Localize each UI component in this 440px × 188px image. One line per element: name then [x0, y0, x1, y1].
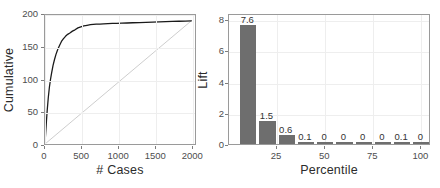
- lift-bar: [413, 142, 429, 144]
- cumulative-y-tick-mark: [41, 14, 44, 15]
- cumulative-y-tick-label: 50: [10, 106, 38, 117]
- gridline-vertical: [82, 15, 83, 144]
- cumulative-plot-area: [44, 14, 196, 145]
- cumulative-y-tick-label: 100: [10, 74, 38, 85]
- lift-x-axis-title: Percentile: [300, 163, 358, 177]
- cumulative-y-tick-mark: [41, 47, 44, 48]
- cumulative-y-tick-mark: [41, 112, 44, 113]
- cumulative-x-tick-mark: [81, 146, 82, 149]
- lift-y-tick-label: 8: [208, 14, 224, 25]
- cumulative-x-axis-title: # Cases: [96, 163, 143, 177]
- lift-x-tick-mark: [276, 146, 277, 149]
- cumulative-x-tick-label: 0: [24, 150, 64, 161]
- cumulative-x-tick-label: 2000: [172, 150, 212, 161]
- cumulative-x-tick-label: 1000: [98, 150, 138, 161]
- cumulative-y-tick-mark: [41, 80, 44, 81]
- cumulative-plot-svg: [45, 15, 195, 144]
- lift-bar-value-label: 0: [400, 131, 440, 142]
- lift-x-tick-label: 75: [352, 150, 392, 161]
- cumulative-x-tick-mark: [155, 146, 156, 149]
- lift-x-tick-mark: [324, 146, 325, 149]
- lift-y-tick-mark: [225, 145, 228, 146]
- gridline-horizontal: [45, 48, 195, 49]
- lift-x-tick-label: 100: [400, 150, 440, 161]
- gridline-vertical: [45, 15, 46, 144]
- cumulative-x-tick-mark: [118, 146, 119, 149]
- lift-bar: [375, 142, 391, 144]
- lift-y-tick-label: 2: [208, 108, 224, 119]
- lift-x-tick-label: 50: [304, 150, 344, 161]
- lift-y-tick-label: 0: [208, 139, 224, 150]
- cumulative-x-tick-mark: [44, 146, 45, 149]
- gridline-horizontal: [45, 113, 195, 114]
- cumulative-y-tick-label: 200: [10, 8, 38, 19]
- gridline-vertical: [156, 15, 157, 144]
- lift-bar: [240, 25, 256, 144]
- gridline-vertical: [193, 15, 194, 144]
- lift-y-tick-mark: [225, 51, 228, 52]
- lift-bar-value-label: 7.6: [227, 14, 267, 25]
- gridline-horizontal: [45, 15, 195, 16]
- cumulative-y-tick-label: 150: [10, 41, 38, 52]
- gridline-vertical: [373, 15, 374, 144]
- lift-x-tick-mark: [420, 146, 421, 149]
- lift-y-tick-mark: [225, 20, 228, 21]
- gridline-vertical: [421, 15, 422, 144]
- lift-bar: [394, 142, 410, 144]
- gridline-horizontal: [229, 84, 429, 85]
- gridline-horizontal: [229, 52, 429, 53]
- lift-plot-area: [228, 14, 430, 145]
- cumulative-x-tick-label: 500: [61, 150, 101, 161]
- lift-bar: [356, 142, 372, 144]
- lift-bar: [298, 142, 314, 144]
- lift-y-tick-label: 4: [208, 77, 224, 88]
- lift-bar-value-label: 1.5: [246, 110, 286, 121]
- lift-bar-chart: Lift Percentile 7.61.50.60.100000.100246…: [220, 0, 440, 188]
- cumulative-gains-chart: Cumulative # Cases 050100150200050010001…: [0, 0, 220, 188]
- lift-y-tick-label: 6: [208, 45, 224, 56]
- lift-y-tick-mark: [225, 83, 228, 84]
- lift-x-tick-mark: [372, 146, 373, 149]
- gridline-vertical: [325, 15, 326, 144]
- cumulative-x-tick-mark: [192, 146, 193, 149]
- gridline-horizontal: [45, 81, 195, 82]
- figure-panel-pair: Cumulative # Cases 050100150200050010001…: [0, 0, 440, 188]
- lift-y-tick-mark: [225, 114, 228, 115]
- cumulative-y-tick-label: 0: [10, 139, 38, 150]
- gridline-vertical: [119, 15, 120, 144]
- cumulative-x-tick-label: 1500: [135, 150, 175, 161]
- lift-bar: [336, 142, 352, 144]
- lift-x-tick-label: 25: [256, 150, 296, 161]
- lift-bar: [317, 142, 333, 144]
